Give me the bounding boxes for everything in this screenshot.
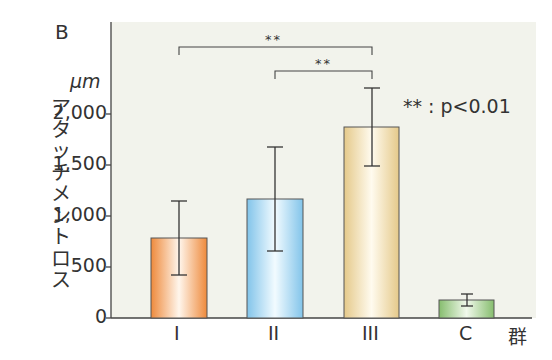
bar-chart [0,0,552,360]
x-axis-label: 群 [508,322,527,349]
x-tick-I: I [174,322,180,344]
x-tick-III: III [362,322,379,344]
x-tick-C: C [459,322,472,344]
significance-note: ** : p<0.01 [403,95,511,117]
sig-mark-II-III: ** [315,56,332,71]
x-tick-II: II [268,322,279,344]
sig-mark-I-III: ** [265,32,282,47]
